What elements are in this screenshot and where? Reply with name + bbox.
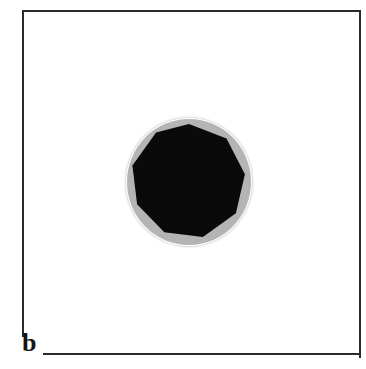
- panel-label-b: b: [22, 330, 36, 356]
- frame-left-rule: [22, 10, 24, 337]
- frame-bottom-rule: [43, 353, 361, 355]
- figure-panel: b: [0, 0, 366, 369]
- core-polygon-shape: [132, 124, 245, 237]
- particle-core-polygon: [131, 124, 247, 240]
- faceted-particle: [127, 119, 251, 245]
- polygon-svg: [131, 124, 247, 240]
- frame-right-rule: [359, 10, 361, 358]
- frame-top-rule: [22, 10, 361, 12]
